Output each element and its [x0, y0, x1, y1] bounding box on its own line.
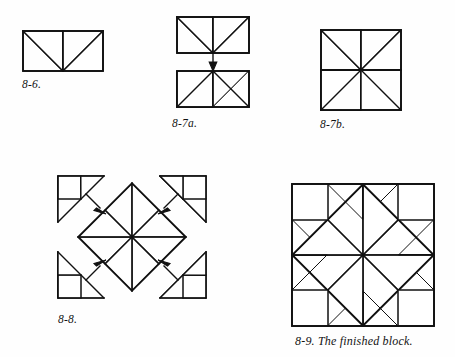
corner-unit-bottom-right — [160, 252, 206, 298]
corner-unit-top-left — [58, 176, 104, 222]
figure-8-7b-drawing — [320, 29, 402, 111]
plain-square — [183, 176, 206, 199]
plain-square — [58, 176, 81, 199]
figure-8-8 — [56, 170, 208, 304]
caption-8-7b: 8-7b. — [320, 118, 345, 130]
caption-8-8: 8-8. — [58, 313, 77, 325]
corner-unit-top-right — [160, 176, 206, 222]
figure-8-6 — [22, 30, 106, 73]
corner-unit-bottom-left — [58, 252, 104, 298]
corner-square — [292, 184, 328, 220]
bottom-unit — [177, 71, 249, 107]
plain-square — [58, 275, 81, 298]
figure-8-7b — [320, 29, 402, 111]
figure-8-8-drawing — [56, 170, 208, 304]
caption-8-7a: 8-7a. — [172, 117, 197, 129]
corner-square — [398, 290, 434, 326]
plain-square — [183, 275, 206, 298]
figure-8-9-drawing — [290, 182, 436, 328]
figure-8-7a-drawing — [176, 16, 264, 108]
center-pinwheel-on-point — [78, 183, 185, 290]
figure-8-6-drawing — [22, 30, 106, 73]
corner-square — [398, 184, 434, 220]
figure-8-9 — [290, 182, 436, 328]
figure-8-7a — [176, 16, 264, 108]
caption-8-6: 8-6. — [22, 78, 41, 90]
corner-square — [292, 290, 328, 326]
illustration-page: 8-6. — [0, 0, 455, 357]
caption-8-9: 8-9. The finished block. — [295, 334, 413, 349]
top-unit — [177, 17, 249, 53]
join-arrow-icon — [209, 54, 217, 71]
